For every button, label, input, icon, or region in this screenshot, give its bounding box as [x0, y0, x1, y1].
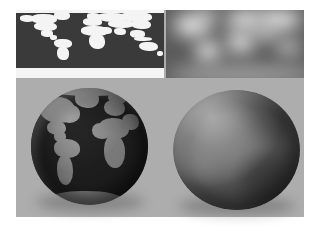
landmass-antarctica: [16, 68, 164, 78]
blur-blob-india-asia: [252, 25, 280, 40]
landmass-arabia: [100, 27, 112, 34]
landmass-south-america-s: [57, 47, 68, 61]
blur-blob-greenland: [196, 11, 215, 22]
world-map-texture-panel: [16, 10, 164, 78]
landmass-india: [114, 28, 126, 35]
blur-blob-australia: [276, 40, 301, 55]
landmass-new-zealand: [157, 51, 163, 56]
landmass-australia: [139, 42, 158, 52]
textured-globe: [31, 88, 148, 205]
blur-blob-antarctic-band: [166, 66, 304, 78]
smooth-shaded-sphere: [173, 90, 300, 210]
landmass-east-asia: [131, 20, 150, 30]
globe-rim-shading: [31, 88, 148, 205]
blur-blob-south-america: [196, 41, 219, 61]
landmass-indonesia: [134, 37, 152, 41]
blur-blob-africa: [227, 30, 255, 53]
landmass-africa-south: [89, 34, 105, 49]
blurred-map-texture-panel: [166, 10, 304, 78]
texture-mapping-figure: [0, 0, 319, 231]
sphere-rim-shading: [173, 90, 300, 210]
